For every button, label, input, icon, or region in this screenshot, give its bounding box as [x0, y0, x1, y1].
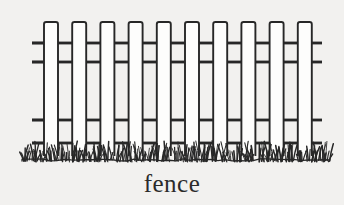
fence-drawing-canvas	[0, 0, 344, 172]
fence-illustration: fence	[0, 0, 344, 205]
figure-caption: fence	[0, 168, 344, 200]
